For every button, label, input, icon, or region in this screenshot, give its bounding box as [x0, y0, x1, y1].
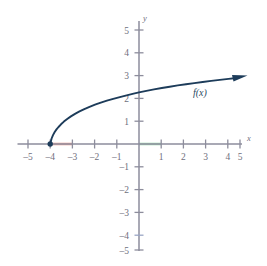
y-tick-label-4: 4: [124, 48, 129, 58]
x-tick-label--1: –1: [111, 152, 122, 162]
y-tick-label-5: 5: [124, 26, 129, 36]
y-tick-label--4: –4: [119, 231, 130, 241]
chart-figure: –5 –4 –3 –2 –1 1 2 3 4 5 5 4 3 2 1 –1 –2…: [0, 0, 267, 266]
x-tick-label-2: 2: [181, 152, 186, 162]
curve-start-point-dot: [48, 141, 53, 146]
x-tick-label--3: –3: [67, 152, 78, 162]
x-tick-label-1: 1: [159, 152, 164, 162]
x-tick-label-4: 4: [225, 152, 230, 162]
y-tick-label--3: –3: [119, 208, 130, 218]
y-axis-tick-labels: 5 4 3 2 1 –1 –2 –3 –4 –5: [119, 26, 130, 256]
curve-arrowhead: [232, 75, 248, 82]
function-graph: –5 –4 –3 –2 –1 1 2 3 4 5 5 4 3 2 1 –1 –2…: [0, 0, 267, 266]
y-tick-label--2: –2: [119, 185, 130, 195]
y-tick-label--5: –5: [119, 246, 130, 256]
x-tick-label-3: 3: [203, 152, 208, 162]
x-axis-label: x: [246, 133, 251, 143]
y-tick-label--1: –1: [119, 162, 130, 172]
y-axis-label: y: [142, 13, 147, 23]
axis-lines: [18, 21, 243, 251]
y-tick-label-3: 3: [124, 71, 129, 81]
x-tick-label--4: –4: [44, 152, 55, 162]
curve-label: f(x): [193, 87, 208, 99]
x-tick-label--2: –2: [89, 152, 100, 162]
x-axis-tick-labels: –5 –4 –3 –2 –1 1 2 3 4 5: [22, 152, 242, 162]
x-tick-label--5: –5: [22, 152, 33, 162]
function-curve-group: [48, 75, 248, 147]
x-tick-label-5: 5: [238, 152, 243, 162]
y-tick-label-1: 1: [124, 117, 129, 127]
